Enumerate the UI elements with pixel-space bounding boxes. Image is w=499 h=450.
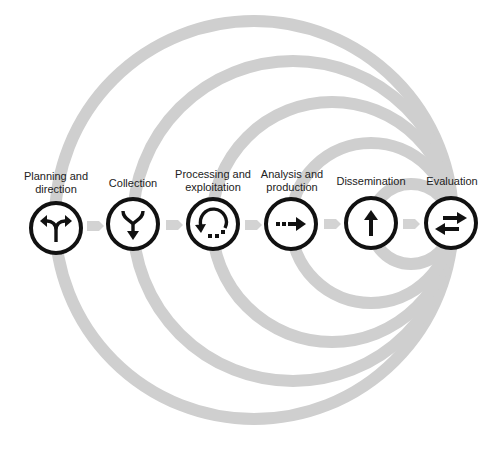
stage-ring — [188, 199, 238, 249]
label-line: Analysis and — [261, 168, 323, 181]
stage-processing[interactable] — [188, 199, 238, 249]
connector-arrow-icon — [166, 220, 183, 230]
stage-collection[interactable] — [108, 199, 158, 249]
stage-label-collection: Collection — [109, 177, 157, 190]
stage-label-dissemination: Dissemination — [336, 175, 405, 188]
label-line: Dissemination — [336, 175, 405, 188]
label-line: direction — [24, 183, 88, 196]
label-line: Evaluation — [426, 175, 477, 188]
stage-dissemination[interactable] — [346, 198, 396, 248]
stage-planning[interactable] — [31, 203, 81, 253]
stage-label-evaluation: Evaluation — [426, 175, 477, 188]
stage-label-processing: Processing and exploitation — [175, 168, 251, 194]
intelligence-cycle-diagram — [0, 0, 499, 450]
stage-label-planning: Planning and direction — [24, 170, 88, 196]
connector-arrow-icon — [245, 220, 262, 230]
label-line: Collection — [109, 177, 157, 190]
stage-evaluation[interactable] — [426, 198, 476, 248]
connector-arrow-icon — [403, 219, 420, 229]
label-line: Planning and — [24, 170, 88, 183]
stage-ring — [426, 198, 476, 248]
connector-arrow-icon — [324, 219, 341, 229]
label-line: Processing and — [175, 168, 251, 181]
label-line: production — [261, 181, 323, 194]
label-line: exploitation — [175, 181, 251, 194]
connector-arrow-icon — [87, 221, 104, 231]
stage-analysis[interactable] — [266, 199, 316, 249]
stage-label-analysis: Analysis and production — [261, 168, 323, 194]
